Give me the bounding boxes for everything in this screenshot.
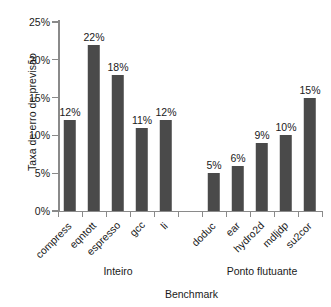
x-axis-tick [82, 211, 83, 217]
bar-value-label: 9% [254, 129, 269, 141]
y-axis-tick-label: 10% [2, 129, 50, 141]
bar-value-label: 5% [206, 159, 221, 171]
bar-value-label: 10% [275, 121, 296, 133]
bar-slot: 15% [298, 20, 322, 211]
y-axis-tick-label: 15% [2, 92, 50, 104]
bar-slot: 9% [250, 20, 274, 211]
bar [280, 135, 292, 211]
bar-value-label: 22% [83, 31, 104, 43]
bar-slot: 5% [202, 20, 226, 211]
x-axis-category-label: ear [223, 219, 242, 238]
x-axis-category-label: doduc [189, 219, 218, 248]
bar-value-label: 6% [230, 152, 245, 164]
x-axis-title: Benchmark [0, 288, 331, 300]
bar-slot: 12% [154, 20, 178, 211]
bar-value-label: 15% [299, 84, 320, 96]
bar [136, 128, 148, 211]
bar-value-label: 12% [59, 106, 80, 118]
x-axis-tick [106, 211, 107, 217]
x-axis-tick [322, 211, 323, 217]
x-axis-category-label: gcc [127, 219, 147, 239]
x-axis-tick [130, 211, 131, 217]
x-axis-tick [250, 211, 251, 217]
bar-value-label: 11% [132, 114, 152, 126]
bar-slot: 22% [82, 20, 106, 211]
y-axis-tick-label: 0% [2, 205, 50, 217]
bar-slot: 11% [130, 20, 154, 211]
x-axis-tick [202, 211, 203, 217]
bar [64, 120, 76, 211]
bar [88, 45, 100, 211]
x-axis-tick [298, 211, 299, 217]
x-axis-category-label: su2cor [283, 219, 314, 250]
bar-chart: Taxa de erro de previsão 0%5%10%15%20%25… [0, 0, 331, 307]
x-axis-tick [274, 211, 275, 217]
x-axis-tick [154, 211, 155, 217]
x-axis-tick [226, 211, 227, 217]
x-axis-category-label: li [158, 219, 170, 231]
bar-slot: 18% [106, 20, 130, 211]
x-axis-group-label: Ponto flutuante [227, 265, 298, 277]
bars-layer: 12%22%18%11%12%5%6%9%10%15% [58, 20, 323, 211]
y-axis-tick-label: 25% [2, 16, 50, 28]
bar [256, 143, 268, 211]
bar [304, 98, 316, 211]
bar-slot: 12% [58, 20, 82, 211]
y-axis-tick-label: 5% [2, 167, 50, 179]
bar-value-label: 12% [155, 106, 176, 118]
bar-slot: 6% [226, 20, 250, 211]
bar [160, 120, 172, 211]
bar [208, 173, 220, 211]
x-axis-tick [178, 211, 179, 217]
bar-value-label: 18% [107, 61, 128, 73]
x-axis-tick [58, 211, 59, 217]
x-axis-group-label: Inteiro [103, 265, 132, 277]
bar [112, 75, 124, 211]
y-axis-tick-label: 20% [2, 54, 50, 66]
bar-slot: 10% [274, 20, 298, 211]
x-axis-title-text: Benchmark [113, 288, 218, 300]
bar [232, 166, 244, 211]
